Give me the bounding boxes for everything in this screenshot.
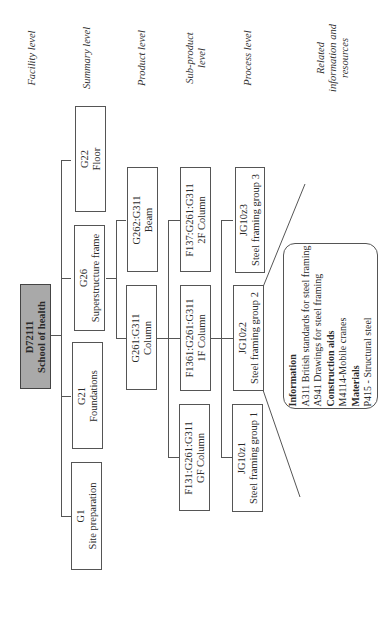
node-code: G21: [76, 386, 87, 404]
node-code: G261:G311: [130, 313, 141, 362]
root-code: D72111: [24, 320, 35, 353]
node-name: Beam: [143, 207, 154, 232]
level-label-text: resources: [339, 38, 350, 78]
level-label-product: Product level: [136, 30, 148, 86]
node-code: G22: [79, 150, 90, 168]
summary-node-superstructure-frame[interactable]: G26Superstructure frame: [74, 225, 105, 331]
summary-node-site-preparation[interactable]: G1Site preparation: [71, 462, 102, 570]
connector: [116, 338, 126, 339]
materials-item: P415 - Structural steel: [362, 246, 375, 407]
node-code: G262:G311: [131, 195, 142, 244]
node-text: G22Floor: [79, 148, 103, 171]
construction-aids-heading: Construction aids: [324, 246, 337, 407]
node-name: Foundations: [88, 370, 99, 422]
process-node-steel-framing-group-2[interactable]: JG10z2Steel framing group 2: [233, 285, 264, 391]
node-text: G1Site preparation: [75, 483, 99, 550]
level-label-text: Product level: [136, 30, 147, 86]
information-heading: Information: [287, 246, 300, 407]
level-label-text: Facility level: [26, 30, 37, 85]
node-code: JG10z3: [238, 204, 249, 236]
level-label-text: Summary level: [81, 27, 92, 89]
node-text: F1361:G261:G3111F Column: [184, 299, 208, 378]
information-item: A941 Drawings for steel framing: [312, 246, 325, 407]
node-name: Floor: [91, 148, 102, 171]
root-node-school-of-health[interactable]: D72111 School of health: [20, 284, 51, 389]
node-text: JG10z2Steel framing group 2: [237, 292, 261, 384]
connector-trunk-subproduct: [168, 220, 169, 458]
node-code: F1361:G261:G311: [184, 299, 195, 378]
node-text: JG10z3Steel framing group 3: [238, 174, 262, 266]
connector: [221, 338, 233, 339]
connector: [168, 220, 180, 221]
connector: [61, 278, 71, 279]
level-label-text: Related: [315, 42, 326, 74]
product-node-beam[interactable]: G262:G311Beam: [127, 167, 158, 272]
root-node-text: D72111 School of health: [24, 301, 48, 373]
node-code: F137:G261:G311: [184, 183, 195, 257]
node-text: G262:G311Beam: [131, 195, 155, 244]
node-text: G21Foundations: [76, 370, 100, 422]
node-name: Column: [142, 321, 153, 355]
connector: [157, 338, 168, 339]
node-text: F131:G261:G311GF Column: [183, 421, 207, 495]
level-label-text: information and: [327, 24, 338, 92]
node-name: 1F Column: [196, 314, 207, 362]
process-node-steel-framing-group-1[interactable]: JG10z1Steel framing group 1: [232, 404, 263, 512]
root-name: School of health: [36, 301, 47, 373]
level-label-facility: Facility level: [26, 30, 38, 85]
node-name: Site preparation: [87, 483, 98, 550]
process-node-steel-framing-group-3[interactable]: JG10z3Steel framing group 3: [235, 167, 265, 273]
construction-aids-item: M4114-Mobile cranes: [337, 246, 350, 407]
level-label-related: Relatedinformation andresources: [315, 24, 351, 92]
subproduct-node-2f-column[interactable]: F137:G261:G3112F Column: [180, 167, 211, 272]
connector: [116, 220, 126, 221]
connector-trunk-product: [116, 220, 117, 339]
node-code: F131:G261:G311: [183, 421, 194, 495]
level-label-text: Sub-product: [184, 32, 195, 84]
resources-callout: Information A311 British standards for s…: [283, 243, 378, 409]
level-label-subproduct: Sub-productlevel: [184, 32, 208, 84]
node-text: G261:G311Column: [130, 313, 154, 362]
summary-node-foundations[interactable]: G21Foundations: [72, 342, 103, 449]
node-name: Steel framing group 2: [249, 292, 260, 384]
connector: [211, 338, 221, 339]
summary-node-floor[interactable]: G22Floor: [75, 106, 106, 212]
connector: [221, 220, 233, 221]
node-code: G1: [75, 510, 86, 523]
information-item: A311 British standards for steel framing: [299, 246, 312, 407]
connector: [61, 396, 71, 397]
connector-trunk-process: [221, 220, 222, 458]
node-name: GF Column: [195, 433, 206, 483]
level-label-text: level: [196, 48, 207, 68]
subproduct-node-gf-column[interactable]: F131:G261:G311GF Column: [179, 404, 210, 511]
node-name: 2F Column: [196, 196, 207, 244]
node-name: Superstructure frame: [90, 234, 101, 322]
node-code: JG10z2: [237, 322, 248, 354]
connector: [61, 160, 71, 161]
subproduct-node-1f-column[interactable]: F1361:G261:G3111F Column: [180, 285, 211, 391]
node-text: JG10z1Steel framing group 1: [236, 412, 260, 504]
connector: [51, 335, 61, 336]
product-node-column[interactable]: G261:G311Column: [126, 285, 157, 390]
level-label-summary: Summary level: [81, 27, 93, 89]
level-label-process: Process level: [242, 30, 254, 85]
node-text: F137:G261:G3112F Column: [184, 183, 208, 257]
connector-trunk-summary: [61, 160, 62, 517]
connector: [106, 278, 116, 279]
connector: [168, 338, 180, 339]
resources-text: Information A311 British standards for s…: [287, 246, 375, 407]
node-code: JG10z1: [236, 442, 247, 474]
node-name: Steel framing group 3: [250, 174, 261, 266]
node-text: G26Superstructure frame: [78, 234, 102, 322]
node-name: Steel framing group 1: [248, 412, 259, 504]
level-label-text: Process level: [242, 30, 253, 85]
materials-heading: Materials: [349, 246, 362, 407]
node-code: G26: [78, 269, 89, 287]
connector: [61, 516, 71, 517]
